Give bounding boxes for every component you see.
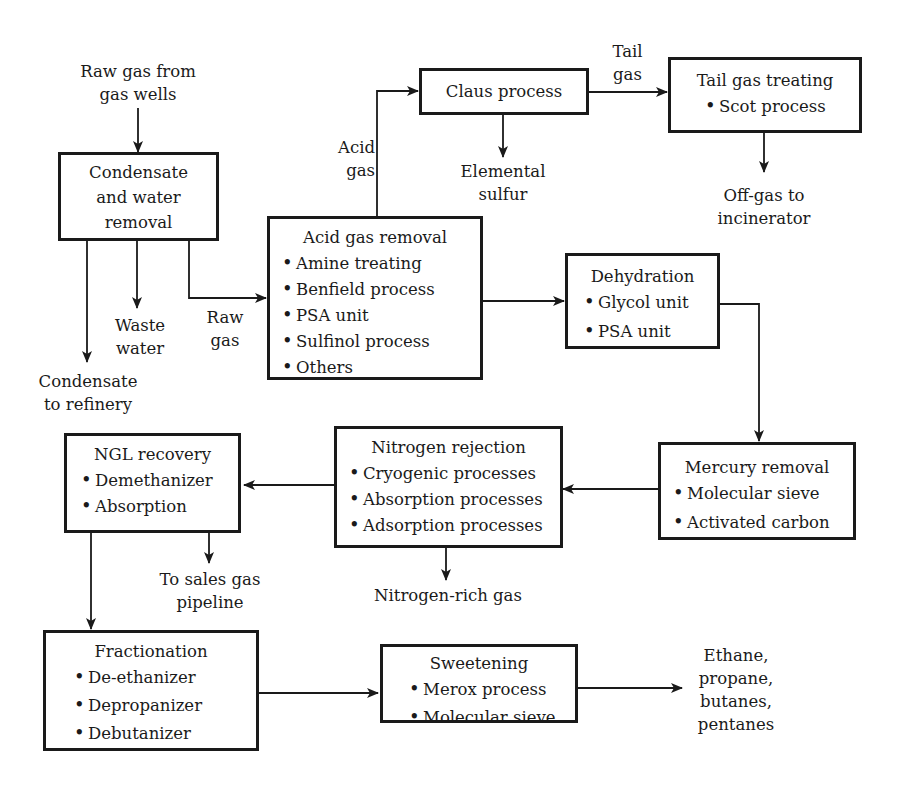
arrow-raw-gas-to-acid-gas [189,240,266,298]
nitrogen-item: Absorption processes [349,486,560,512]
mercury-item: Molecular sieve [673,480,853,506]
acidgas-item: Others [282,354,480,380]
tailgas-item: Scot process [705,93,859,119]
dehydration-item: PSA unit [584,318,717,344]
sweetening-item: Molecular sieve [409,704,575,730]
products-label: Ethane, propane, butanes, pentanes [690,644,782,736]
arrow-dehydration-to-mercury [720,304,759,441]
ngl-item: Absorption [81,493,238,519]
node-sweetening: Sweetening Merox process Molecular sieve [380,644,578,723]
dehydration-item: Glycol unit [584,289,717,315]
ngl-item: Demethanizer [81,467,238,493]
node-claus-process: Claus process [419,68,589,115]
waste-water-label: Waste water [105,314,175,360]
arrow-acid-gas-to-claus [377,91,418,216]
fractionation-item: Debutanizer [74,720,256,746]
sales-gas-label: To sales gas pipeline [150,568,270,614]
node-dehydration: Dehydration Glycol unit PSA unit [565,253,720,349]
fractionation-item: De-ethanizer [74,664,256,690]
node-acid-gas-removal: Acid gas removal Amine treating Benfield… [267,216,483,380]
node-tail-gas-treating: Tail gas treating Scot process [668,57,862,133]
elemental-sulfur-label: Elemental sulfur [455,160,551,206]
acidgas-item: Benfield process [282,276,480,302]
acidgas-item: PSA unit [282,302,480,328]
process-flow-diagram: Raw gas from gas wells Acid gas Tail gas… [0,0,897,787]
node-mercury-removal: Mercury removal Molecular sieve Activate… [658,442,856,540]
node-ngl-recovery: NGL recovery Demethanizer Absorption [64,433,241,533]
acid-gas-label: Acid gas [327,136,375,182]
acidgas-item: Sulfinol process [282,328,480,354]
tail-gas-label: Tail gas [600,40,655,86]
sweetening-item: Merox process [409,676,575,702]
nitrogen-item: Adsorption processes [349,512,560,538]
offgas-label: Off-gas to incinerator [708,184,820,230]
nitrogen-item: Cryogenic processes [349,460,560,486]
node-fractionation: Fractionation De-ethanizer Depropanizer … [43,630,259,751]
acidgas-item: Amine treating [282,250,480,276]
condensate-refinery-label: Condensate to refinery [30,370,146,416]
raw-gas-source-label: Raw gas from gas wells [78,60,198,106]
fractionation-item: Depropanizer [74,692,256,718]
node-condensate-water-removal: Condensate and water removal [58,152,219,241]
raw-gas-label: Raw gas [200,306,250,352]
nitrogen-rich-gas-label: Nitrogen-rich gas [370,584,526,607]
node-nitrogen-rejection: Nitrogen rejection Cryogenic processes A… [334,426,563,548]
mercury-item: Activated carbon [673,509,853,535]
